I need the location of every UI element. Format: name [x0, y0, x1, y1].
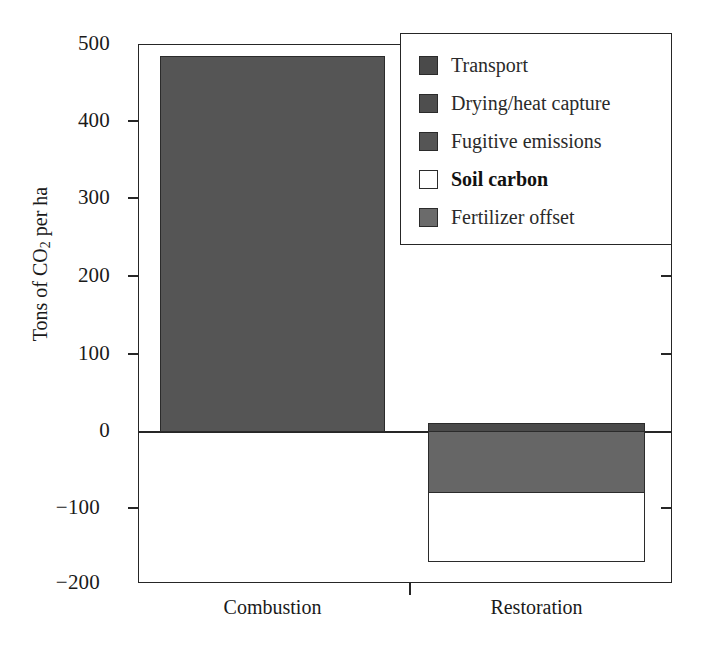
- legend-label-transport: Transport: [451, 54, 528, 76]
- y-tick-right-neg100: [661, 507, 672, 509]
- y-tick-300: [128, 197, 139, 199]
- y-tick-label-300: 300: [56, 187, 110, 208]
- x-label-restoration: Restoration: [428, 595, 645, 619]
- legend-item-fertilizer-offset[interactable]: Fertilizer offset: [419, 198, 671, 236]
- legend-swatch-icon-transport: [419, 56, 438, 75]
- bar-restoration-fertilizer-offset[interactable]: [428, 431, 645, 493]
- y-tick-neg100: [128, 507, 139, 509]
- y-tick-label-0: 0: [56, 420, 110, 441]
- legend-swatch-icon-drying-heat-capture: [419, 94, 438, 113]
- y-tick-label-200: 200: [56, 265, 110, 286]
- legend-item-drying-heat-capture[interactable]: Drying/heat capture: [419, 84, 671, 122]
- legend-label-drying-heat-capture: Drying/heat capture: [451, 92, 610, 114]
- legend-item-transport[interactable]: Transport: [419, 46, 671, 84]
- co2-bar-chart: 500 400 300 200 100 0 −100 −200 Tons of …: [0, 0, 710, 650]
- bar-combustion-fugitive-emissions[interactable]: [160, 56, 385, 432]
- legend-label-soil-carbon: Soil carbon: [451, 168, 548, 190]
- legend-swatch-icon-fertilizer-offset: [419, 208, 438, 227]
- y-axis-title: Tons of CO2 per ha: [29, 144, 57, 384]
- y-axis-title-pre: Tons of CO: [29, 248, 51, 341]
- legend-label-fugitive-emissions: Fugitive emissions: [451, 130, 602, 152]
- legend-item-fugitive-emissions[interactable]: Fugitive emissions: [419, 122, 671, 160]
- legend-item-soil-carbon[interactable]: Soil carbon: [419, 160, 671, 198]
- legend-box: Transport Drying/heat capture Fugitive e…: [400, 33, 672, 245]
- x-axis-category-tick: [409, 583, 411, 595]
- y-tick-label-500: 500: [56, 33, 110, 54]
- y-tick-label-neg100: −100: [46, 497, 100, 518]
- y-tick-400: [128, 120, 139, 122]
- y-tick-100: [128, 353, 139, 355]
- y-tick-right-100: [661, 353, 672, 355]
- bar-restoration-soil-carbon[interactable]: [428, 492, 645, 562]
- y-tick-label-neg200: −200: [46, 572, 100, 593]
- legend-label-fertilizer-offset: Fertilizer offset: [451, 206, 574, 228]
- x-label-combustion: Combustion: [160, 595, 385, 619]
- legend-swatch-icon-fugitive-emissions: [419, 132, 438, 151]
- y-tick-200: [128, 275, 139, 277]
- y-tick-label-400: 400: [56, 110, 110, 131]
- y-axis-title-post: per ha: [29, 187, 51, 241]
- y-tick-right-200: [661, 275, 672, 277]
- legend-swatch-icon-soil-carbon: [419, 170, 438, 189]
- y-tick-label-100: 100: [56, 343, 110, 364]
- y-axis-title-sub: 2: [38, 241, 53, 248]
